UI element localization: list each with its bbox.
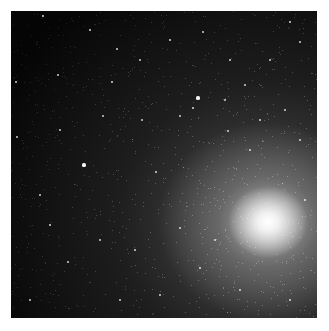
noise-speckle bbox=[220, 48, 221, 49]
noise-speckle bbox=[58, 168, 59, 169]
noise-speckle bbox=[178, 135, 179, 136]
noise-speckle bbox=[100, 35, 101, 36]
noise-speckle bbox=[63, 68, 64, 69]
noise-speckle bbox=[130, 71, 131, 72]
noise-speckle bbox=[254, 254, 255, 255]
noise-speckle bbox=[89, 176, 90, 177]
noise-speckle bbox=[58, 295, 59, 296]
noise-speckle bbox=[235, 53, 236, 54]
noise-speckle bbox=[66, 108, 67, 109]
noise-speckle bbox=[264, 157, 265, 158]
noise-speckle bbox=[62, 76, 63, 77]
noise-speckle bbox=[238, 41, 239, 42]
noise-speckle bbox=[32, 121, 33, 122]
noise-speckle bbox=[259, 221, 260, 222]
noise-speckle bbox=[257, 164, 258, 165]
noise-speckle bbox=[272, 136, 273, 137]
noise-speckle bbox=[298, 182, 299, 183]
noise-speckle bbox=[279, 47, 280, 48]
noise-speckle bbox=[25, 67, 26, 68]
noise-speckle bbox=[315, 304, 316, 305]
noise-speckle bbox=[57, 135, 58, 136]
noise-speckle bbox=[169, 62, 170, 63]
noise-speckle bbox=[96, 172, 97, 173]
noise-speckle bbox=[176, 50, 177, 51]
noise-speckle bbox=[254, 280, 255, 281]
noise-speckle bbox=[96, 215, 97, 216]
noise-speckle bbox=[85, 151, 86, 152]
noise-speckle bbox=[123, 117, 124, 118]
noise-speckle bbox=[111, 75, 112, 76]
noise-speckle bbox=[266, 130, 267, 131]
noise-speckle bbox=[63, 35, 64, 36]
noise-speckle bbox=[238, 262, 239, 263]
noise-speckle bbox=[221, 84, 222, 85]
noise-speckle bbox=[61, 143, 62, 144]
star bbox=[304, 199, 306, 201]
noise-speckle bbox=[255, 302, 256, 303]
noise-speckle bbox=[139, 307, 140, 308]
noise-speckle bbox=[291, 293, 292, 294]
noise-speckle bbox=[70, 52, 71, 53]
noise-speckle bbox=[223, 199, 224, 200]
noise-speckle bbox=[173, 296, 174, 297]
noise-speckle bbox=[205, 229, 206, 230]
noise-speckle bbox=[186, 61, 187, 62]
noise-speckle bbox=[244, 137, 245, 138]
noise-speckle bbox=[288, 242, 289, 243]
noise-speckle bbox=[312, 73, 313, 74]
noise-speckle bbox=[215, 205, 216, 206]
noise-speckle bbox=[21, 300, 22, 301]
noise-speckle bbox=[149, 247, 150, 248]
noise-speckle bbox=[14, 77, 15, 78]
noise-speckle bbox=[28, 132, 29, 133]
noise-speckle bbox=[271, 298, 272, 299]
noise-speckle bbox=[225, 130, 226, 131]
noise-speckle bbox=[115, 242, 116, 243]
noise-speckle bbox=[132, 141, 133, 142]
noise-speckle bbox=[193, 65, 194, 66]
noise-speckle bbox=[59, 140, 60, 141]
noise-speckle bbox=[119, 202, 120, 203]
noise-speckle bbox=[293, 259, 294, 260]
noise-speckle bbox=[59, 245, 60, 246]
noise-speckle bbox=[237, 112, 238, 113]
noise-speckle bbox=[162, 23, 163, 24]
noise-speckle bbox=[162, 274, 163, 275]
noise-speckle bbox=[247, 168, 248, 169]
noise-speckle bbox=[102, 177, 103, 178]
noise-speckle bbox=[298, 185, 299, 186]
noise-speckle bbox=[210, 92, 211, 93]
noise-speckle bbox=[281, 133, 282, 134]
noise-speckle bbox=[64, 76, 65, 77]
noise-speckle bbox=[233, 11, 234, 12]
noise-speckle bbox=[267, 114, 268, 115]
noise-speckle bbox=[127, 249, 128, 250]
noise-speckle bbox=[34, 14, 35, 15]
noise-speckle bbox=[14, 283, 15, 284]
noise-speckle bbox=[278, 305, 279, 306]
noise-speckle bbox=[233, 115, 234, 116]
noise-speckle bbox=[275, 12, 276, 13]
noise-speckle bbox=[89, 199, 90, 200]
noise-speckle bbox=[238, 208, 239, 209]
noise-speckle bbox=[95, 218, 96, 219]
noise-speckle bbox=[193, 102, 194, 103]
noise-speckle bbox=[275, 206, 276, 207]
noise-speckle bbox=[84, 26, 85, 27]
noise-speckle bbox=[191, 82, 192, 83]
noise-speckle bbox=[158, 209, 159, 210]
noise-speckle bbox=[20, 269, 21, 270]
noise-speckle bbox=[285, 67, 286, 68]
noise-speckle bbox=[314, 272, 315, 273]
noise-speckle bbox=[46, 165, 47, 166]
star bbox=[289, 299, 291, 301]
noise-speckle bbox=[130, 118, 131, 119]
noise-speckle bbox=[228, 96, 229, 97]
noise-speckle bbox=[238, 276, 239, 277]
noise-speckle bbox=[75, 137, 76, 138]
noise-speckle bbox=[17, 287, 18, 288]
noise-speckle bbox=[170, 76, 171, 77]
noise-speckle bbox=[239, 299, 240, 300]
noise-speckle bbox=[73, 233, 74, 234]
